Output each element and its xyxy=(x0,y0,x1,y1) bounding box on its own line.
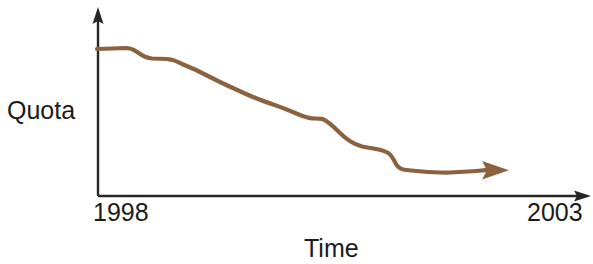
x-axis-tick-start: 1998 xyxy=(93,200,149,225)
quota-trend-line xyxy=(97,48,486,173)
x-axis-tick-end: 2003 xyxy=(527,200,583,225)
quota-vs-time-chart: Quota Time 1998 2003 xyxy=(0,0,593,264)
y-axis-label: Quota xyxy=(7,98,75,123)
x-axis-label: Time xyxy=(304,236,359,261)
chart-canvas xyxy=(0,0,593,264)
